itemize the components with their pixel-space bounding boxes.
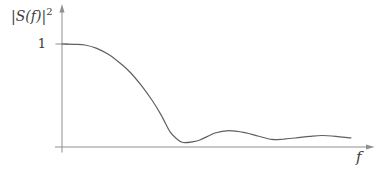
x-axis-arrowhead-icon	[366, 145, 375, 150]
y-tick-label-1: 1	[34, 37, 46, 50]
y-axis-label: |S(f)|2	[11, 9, 53, 23]
y-axis-arrowhead-icon	[60, 4, 65, 13]
x-axis-label: f	[356, 150, 362, 165]
y-axis-label-base: |S(f)|	[11, 8, 46, 24]
y-axis-label-exponent: 2	[46, 6, 52, 17]
spectrum-curve	[62, 44, 351, 143]
power-spectrum-figure: |S(f)|2 1 f	[0, 0, 386, 172]
plot-canvas	[0, 0, 386, 172]
